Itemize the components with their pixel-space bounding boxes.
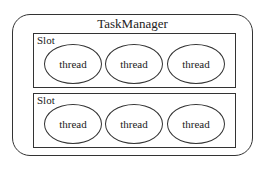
- slot-label: Slot: [37, 94, 55, 106]
- thread-node: thread: [44, 44, 102, 84]
- thread-label: thread: [59, 58, 86, 70]
- thread-node: thread: [105, 104, 163, 144]
- thread-node: thread: [167, 44, 225, 84]
- thread-node: thread: [44, 104, 102, 144]
- thread-label: thread: [182, 58, 209, 70]
- slot-label: Slot: [37, 34, 55, 46]
- thread-node: thread: [105, 44, 163, 84]
- thread-label: thread: [120, 58, 147, 70]
- slot-2: Slot thread thread thread: [33, 93, 236, 148]
- taskmanager-container: TaskManager Slot thread thread thread Sl…: [12, 14, 253, 156]
- taskmanager-label: TaskManager: [13, 16, 252, 32]
- thread-label: thread: [182, 118, 209, 130]
- thread-label: thread: [59, 118, 86, 130]
- thread-node: thread: [167, 104, 225, 144]
- thread-label: thread: [120, 118, 147, 130]
- slot-1: Slot thread thread thread: [33, 33, 236, 88]
